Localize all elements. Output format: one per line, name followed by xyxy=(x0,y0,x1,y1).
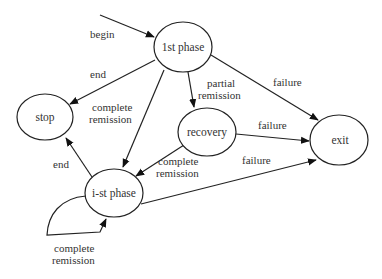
edge-label-complete-remission-3a: complete xyxy=(54,242,94,254)
node-stop: stop xyxy=(17,94,73,140)
node-recovery: recovery xyxy=(178,108,236,156)
state-diagram: begin end complete remission partial rem… xyxy=(0,0,382,279)
node-first-phase: 1st phase xyxy=(154,22,212,72)
node-exit: exit xyxy=(310,115,368,165)
edge-begin: begin xyxy=(90,15,154,40)
edge-label-failure-2: failure xyxy=(258,119,287,131)
edge-first-phase-to-recovery: partial remission xyxy=(188,72,241,107)
node-label-stop: stop xyxy=(35,111,54,124)
edge-label-begin: begin xyxy=(90,28,115,40)
node-label-ist-phase: i-st phase xyxy=(92,187,136,200)
edge-ist-phase-to-stop: end xyxy=(53,138,92,177)
edge-label-partial-remission-a: partial xyxy=(207,77,235,89)
edge-label-complete-remission-3b: remission xyxy=(52,254,95,266)
edge-label-end-2: end xyxy=(53,158,69,170)
edge-label-end-1: end xyxy=(90,68,106,80)
edge-label-failure-1: failure xyxy=(273,76,302,88)
edge-label-complete-remission-1b: remission xyxy=(89,113,132,125)
node-label-exit: exit xyxy=(331,134,349,146)
edge-first-phase-to-stop: end xyxy=(70,60,155,104)
node-label-recovery: recovery xyxy=(187,126,227,139)
node-ist-phase: i-st phase xyxy=(85,169,143,217)
node-label-first-phase: 1st phase xyxy=(162,41,204,54)
edge-first-phase-to-ist-phase: complete remission xyxy=(89,70,164,167)
edge-label-complete-remission-2b: remission xyxy=(156,167,199,179)
edge-label-complete-remission-2a: complete xyxy=(158,155,198,167)
edge-label-failure-3: failure xyxy=(242,154,271,166)
edge-recovery-to-exit: failure xyxy=(236,119,309,141)
edge-label-complete-remission-1a: complete xyxy=(92,101,132,113)
edge-label-partial-remission-b: remission xyxy=(198,89,241,101)
